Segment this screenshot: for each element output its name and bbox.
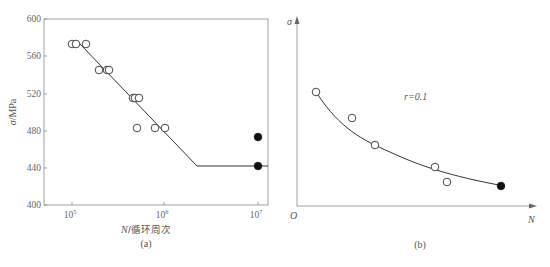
ytick-400: 400 bbox=[27, 200, 42, 210]
data-point bbox=[348, 114, 356, 122]
runout-point-b bbox=[497, 182, 505, 190]
xtick-1e6: 106 bbox=[156, 208, 170, 220]
y-axis-ticks-a bbox=[44, 19, 47, 205]
xtick-1e7: 107 bbox=[250, 208, 264, 220]
y-axis-title-a: σ/MPa bbox=[7, 98, 18, 125]
x-axis-title-b: N bbox=[527, 214, 536, 225]
y-axis-arrow-icon bbox=[295, 16, 300, 24]
chart-a: 600 560 520 480 440 400 σ/MPa 105 106 10… bbox=[7, 14, 268, 250]
ytick-440: 440 bbox=[27, 163, 42, 173]
open-points-a bbox=[68, 40, 169, 132]
data-point bbox=[443, 178, 451, 186]
annotation-r: r=0.1 bbox=[404, 91, 427, 102]
runout-point bbox=[254, 133, 262, 141]
data-point bbox=[161, 124, 169, 132]
x-axis-title-a: N/循环周次 bbox=[120, 224, 171, 235]
data-point bbox=[133, 124, 141, 132]
data-point bbox=[105, 66, 113, 74]
y-axis-labels-a: 600 560 520 480 440 400 bbox=[27, 14, 42, 210]
runout-points-a bbox=[254, 133, 262, 170]
open-points-b bbox=[312, 88, 451, 186]
data-point bbox=[431, 163, 439, 171]
data-point bbox=[135, 94, 143, 102]
x-axis-ticks-a bbox=[72, 202, 258, 205]
ytick-560: 560 bbox=[27, 51, 42, 61]
ytick-480: 480 bbox=[27, 126, 42, 136]
origin-label-b: O bbox=[290, 210, 297, 221]
data-point bbox=[312, 88, 320, 96]
chart-b: σ N O r=0.1 (b) bbox=[287, 16, 537, 251]
caption-a: (a) bbox=[140, 238, 151, 250]
runout-point bbox=[254, 162, 262, 170]
sn-fit-line-a bbox=[80, 44, 268, 166]
data-point bbox=[82, 40, 90, 48]
caption-b: (b) bbox=[414, 239, 426, 251]
data-point bbox=[72, 40, 80, 48]
data-point bbox=[151, 124, 159, 132]
ytick-600: 600 bbox=[27, 14, 42, 24]
x-axis-labels-a: 105 106 107 bbox=[64, 208, 264, 220]
ytick-520: 520 bbox=[27, 89, 42, 99]
fit-curve-b bbox=[318, 95, 504, 186]
data-point bbox=[95, 66, 103, 74]
x-axis-arrow-icon bbox=[529, 204, 537, 209]
y-axis-title-b: σ bbox=[287, 16, 293, 27]
xtick-1e5: 105 bbox=[64, 208, 77, 220]
data-point bbox=[371, 141, 379, 149]
